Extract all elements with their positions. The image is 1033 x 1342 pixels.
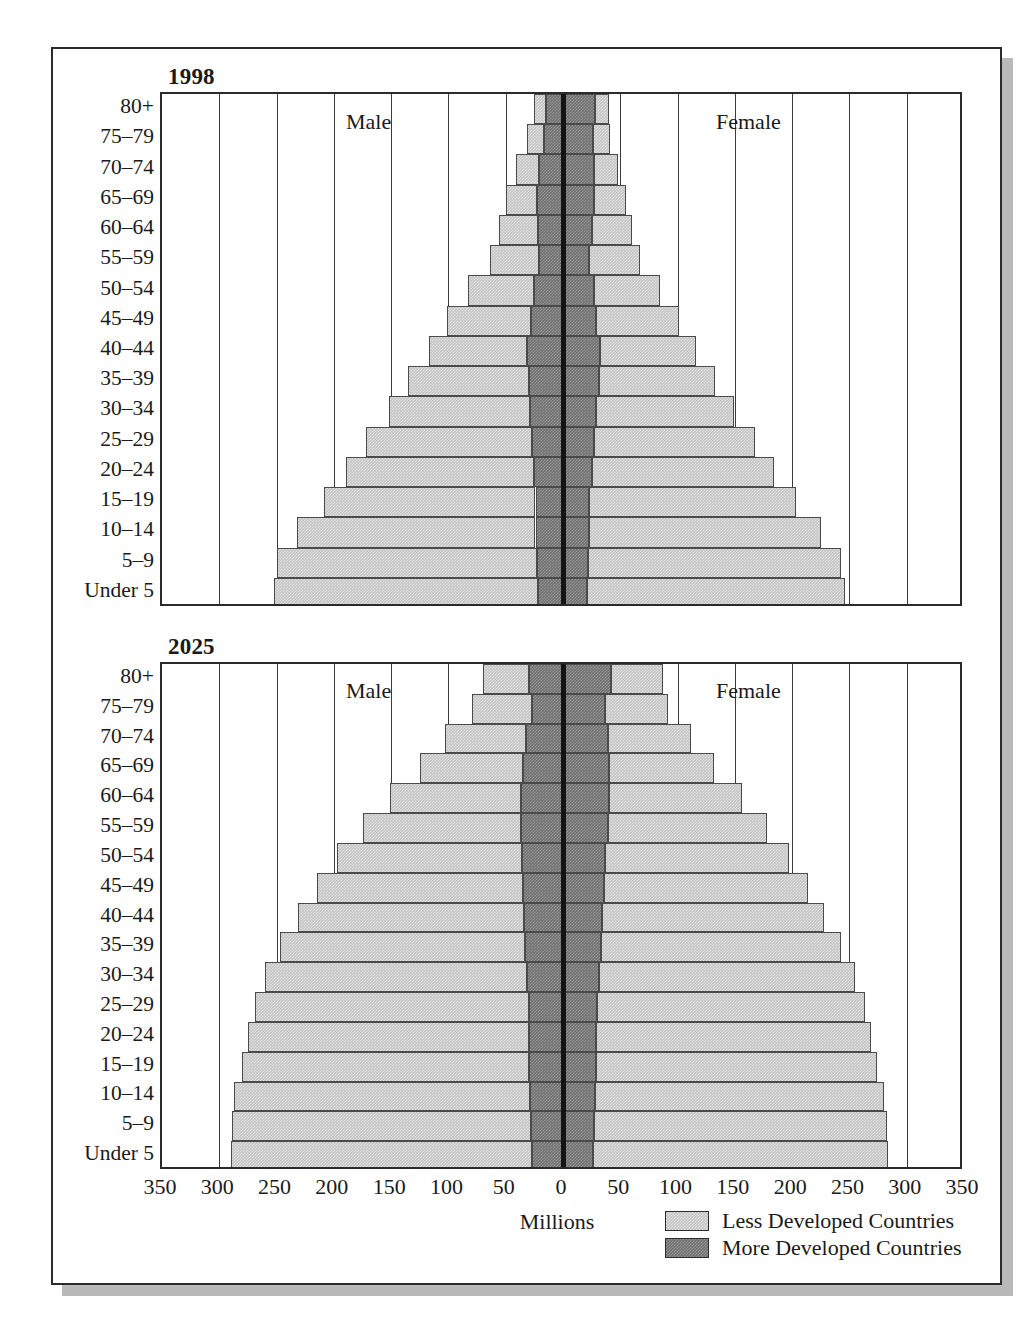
bar-segment-male-less-developed <box>297 517 535 547</box>
age-group-label: 25–29 <box>53 429 154 451</box>
bar-segment-male-less-developed <box>337 843 521 873</box>
bar-segment-male-less-developed <box>231 1141 532 1169</box>
bar-segment-male-less-developed <box>242 1052 528 1082</box>
x-axis-tick-label: 100 <box>659 1174 692 1200</box>
bar-segment-female-less-developed <box>594 427 756 457</box>
bar-segment-male-more-developed <box>522 843 563 873</box>
bar-segment-female-more-developed <box>563 873 604 903</box>
bar-segment-male-more-developed <box>531 306 563 336</box>
bar-segment-female-more-developed <box>563 396 596 426</box>
age-group-label: 20–24 <box>53 459 154 481</box>
legend-swatch-more-developed <box>665 1238 709 1258</box>
zero-axis-line <box>561 94 566 604</box>
bar-segment-male-less-developed <box>499 215 538 245</box>
age-group-label: 5–9 <box>53 1113 154 1135</box>
bar-segment-female-less-developed <box>599 366 716 396</box>
age-group-label: 55–59 <box>53 815 154 837</box>
plot-area-2025 <box>160 662 962 1169</box>
chart-legend: Less Developed CountriesMore Developed C… <box>665 1207 962 1261</box>
bar-segment-male-more-developed <box>537 185 563 215</box>
bar-segment-female-less-developed <box>595 1082 884 1112</box>
bar-segment-male-more-developed <box>530 396 563 426</box>
bar-segment-male-less-developed <box>506 185 537 215</box>
bar-segment-female-less-developed <box>596 396 733 426</box>
age-group-label: 75–79 <box>53 126 154 148</box>
bar-segment-male-more-developed <box>538 215 563 245</box>
bar-segment-male-more-developed <box>539 154 563 184</box>
bar-segment-male-more-developed <box>532 1141 563 1169</box>
bar-segment-male-more-developed <box>523 753 563 783</box>
x-axis-tick-label: 100 <box>430 1174 463 1200</box>
bar-segment-male-less-developed <box>445 724 526 754</box>
bar-segment-male-more-developed <box>524 903 563 933</box>
x-axis-tick-label: 350 <box>946 1174 979 1200</box>
x-axis-tick-label: 150 <box>716 1174 749 1200</box>
bar-segment-female-more-developed <box>563 245 589 275</box>
bar-segment-male-less-developed <box>468 275 534 305</box>
x-axis-tick-label: 200 <box>774 1174 807 1200</box>
bar-segment-female-less-developed <box>600 336 696 366</box>
legend-item: Less Developed Countries <box>665 1207 962 1234</box>
bar-segment-male-less-developed <box>366 427 532 457</box>
age-group-label: 65–69 <box>53 187 154 209</box>
bar-segment-female-less-developed <box>609 753 714 783</box>
bar-segment-female-more-developed <box>563 548 588 578</box>
age-group-label: 20–24 <box>53 1024 154 1046</box>
bar-segment-male-more-developed <box>529 1052 563 1082</box>
bar-segment-female-less-developed <box>589 245 639 275</box>
bar-segment-female-less-developed <box>594 154 618 184</box>
bar-segment-female-less-developed <box>604 873 808 903</box>
panel-title-1998: 1998 <box>168 64 215 90</box>
age-group-label: 80+ <box>53 96 154 118</box>
bar-segment-male-less-developed <box>516 154 539 184</box>
age-group-label: 75–79 <box>53 696 154 718</box>
x-axis-tick-label: 300 <box>888 1174 921 1200</box>
bar-segment-male-more-developed <box>534 275 563 305</box>
panel-title-2025: 2025 <box>168 634 215 660</box>
x-axis-tick-label: 50 <box>607 1174 629 1200</box>
x-axis-tick-label: 50 <box>493 1174 515 1200</box>
bar-segment-male-less-developed <box>277 548 537 578</box>
bar-segment-female-more-developed <box>563 1082 595 1112</box>
bar-segment-female-less-developed <box>602 903 824 933</box>
bar-segment-female-more-developed <box>563 1141 593 1169</box>
bar-segment-male-less-developed <box>346 457 534 487</box>
bar-segment-male-more-developed <box>531 1111 563 1141</box>
bar-segment-male-more-developed <box>536 517 563 547</box>
bar-segment-female-more-developed <box>563 124 593 154</box>
bar-segment-female-less-developed <box>596 1022 871 1052</box>
bar-segment-male-more-developed <box>538 578 563 606</box>
age-group-label: 50–54 <box>53 278 154 300</box>
bar-segment-female-more-developed <box>563 94 595 124</box>
age-group-label: 40–44 <box>53 905 154 927</box>
bar-segment-female-more-developed <box>563 154 594 184</box>
bar-segment-male-less-developed <box>429 336 528 366</box>
age-group-label: 50–54 <box>53 845 154 867</box>
bar-segment-male-more-developed <box>525 932 563 962</box>
bar-segment-female-more-developed <box>563 694 605 724</box>
bar-segment-female-less-developed <box>601 932 842 962</box>
bar-segment-male-less-developed <box>317 873 523 903</box>
age-group-label: 45–49 <box>53 875 154 897</box>
bar-segment-female-more-developed <box>563 306 596 336</box>
bar-segment-female-more-developed <box>563 664 611 694</box>
bar-segment-female-less-developed <box>589 517 820 547</box>
age-group-label: 65–69 <box>53 755 154 777</box>
x-axis-tick-label: 300 <box>201 1174 234 1200</box>
age-group-label: 15–19 <box>53 1054 154 1076</box>
bar-segment-male-more-developed <box>527 336 563 366</box>
age-group-label: 40–44 <box>53 338 154 360</box>
bar-segment-female-less-developed <box>588 548 841 578</box>
age-group-label: 30–34 <box>53 964 154 986</box>
bar-segment-male-more-developed <box>529 992 563 1022</box>
bar-segment-male-more-developed <box>534 457 563 487</box>
legend-swatch-less-developed <box>665 1211 709 1231</box>
age-group-label: 55–59 <box>53 247 154 269</box>
x-axis-title: Millions <box>520 1209 595 1235</box>
bar-segment-male-more-developed <box>527 962 563 992</box>
bar-segment-female-more-developed <box>563 992 597 1022</box>
age-group-label: 35–39 <box>53 934 154 956</box>
bar-segment-male-more-developed <box>529 1022 563 1052</box>
age-group-label: 60–64 <box>53 217 154 239</box>
legend-item: More Developed Countries <box>665 1234 962 1261</box>
